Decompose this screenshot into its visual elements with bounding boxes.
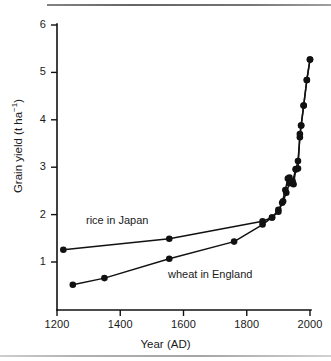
x-tick-label: 1600: [164, 318, 204, 330]
figure-container: 123456 12001400160018002000 Grain yield …: [0, 0, 331, 361]
x-tick-label: 1200: [37, 318, 77, 330]
y-axis-title-end: ): [12, 99, 24, 103]
x-tick-label: 1400: [100, 318, 140, 330]
page-bottom-rule: [0, 355, 331, 357]
y-tick-label: 2: [30, 208, 46, 220]
x-axis-title: Year (AD): [0, 338, 331, 350]
y-tick-label: 5: [30, 65, 46, 77]
x-axis-ticks: [57, 310, 310, 316]
y-axis-ticks: [51, 25, 57, 262]
x-tick-label: 1800: [227, 318, 267, 330]
y-axis-title-exponent: −1: [10, 103, 19, 112]
series-line-wheat-in-england: [73, 60, 310, 285]
x-tick-label: 2000: [290, 318, 330, 330]
y-tick-label: 3: [30, 160, 46, 172]
annotation-wheat-in-england: wheat in England: [168, 268, 252, 280]
y-axis-title-main: Grain yield (t ha: [12, 112, 24, 193]
y-axis-title: Grain yield (t ha−1): [12, 66, 24, 226]
y-tick-label: 6: [30, 18, 46, 30]
y-tick-label: 1: [30, 255, 46, 267]
chart-plot-area: [0, 0, 331, 361]
y-tick-label: 4: [30, 113, 46, 125]
annotation-rice-in-japan: rice in Japan: [86, 214, 148, 226]
